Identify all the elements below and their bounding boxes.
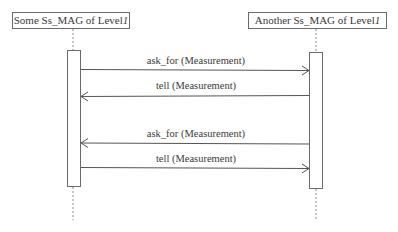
message-arrow-2 <box>81 92 309 101</box>
message-arrow-1 <box>81 66 309 75</box>
activation-bar-left <box>68 51 81 187</box>
activation-bar-right <box>310 53 323 189</box>
message-label-1: ask_for (Measurement) <box>147 55 245 66</box>
message-label-4: tell (Measurement) <box>156 153 236 164</box>
message-arrow-4 <box>81 164 309 173</box>
message-label-2: tell (Measurement) <box>156 80 236 91</box>
sequence-diagram-canvas <box>0 0 398 232</box>
message-arrow-3 <box>81 139 309 148</box>
message-label-3: ask_for (Measurement) <box>147 128 245 139</box>
